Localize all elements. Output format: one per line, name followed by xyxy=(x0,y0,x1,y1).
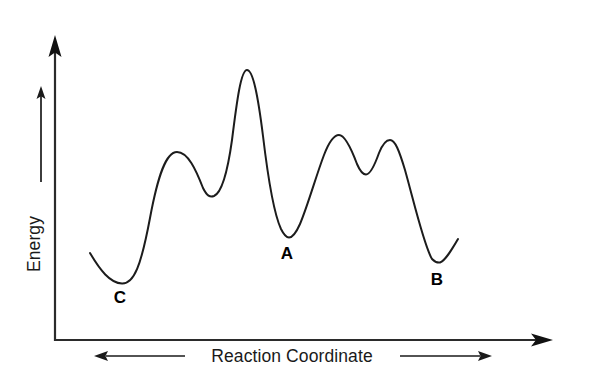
energy-profile-curve xyxy=(90,70,458,284)
point-label-b: B xyxy=(431,270,443,289)
reaction-coordinate-left-arrowhead-icon xyxy=(94,351,108,361)
x-axis-title-group: Reaction Coordinate xyxy=(94,346,492,366)
x-axis-title: Reaction Coordinate xyxy=(211,346,372,366)
point-label-c: C xyxy=(114,288,126,307)
x-axis-group xyxy=(55,334,553,347)
reaction-coordinate-diagram: Energy Reaction Coordinate C A B xyxy=(0,0,592,383)
energy-profile-figure: Energy Reaction Coordinate C A B xyxy=(0,0,592,383)
point-label-a: A xyxy=(281,244,293,263)
reaction-coordinate-right-arrowhead-icon xyxy=(478,351,492,361)
y-axis-group xyxy=(49,35,62,341)
y-axis-title: Energy xyxy=(24,216,44,272)
y-axis-title-group: Energy xyxy=(24,86,46,272)
